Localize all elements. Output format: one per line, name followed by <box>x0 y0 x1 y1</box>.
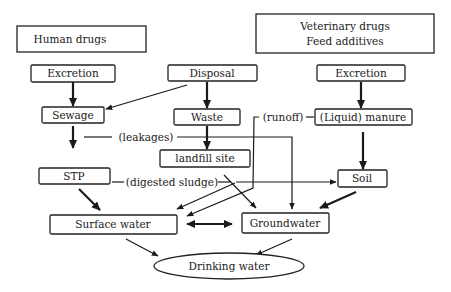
node-label: Excretion <box>47 67 99 79</box>
node-veterinary-drugs-feed-additives: Veterinary drugs Feed additives <box>256 14 434 53</box>
node-disposal: Disposal <box>168 65 257 81</box>
node-label: Groundwater <box>250 217 322 229</box>
arrow-stp-to-surface-water <box>79 189 100 210</box>
node-label: Excretion <box>335 67 387 79</box>
node-label: Waste <box>191 111 223 123</box>
node-excretion-human: Excretion <box>31 65 115 82</box>
node-label: Soil <box>352 172 373 184</box>
node-label: Drinking water <box>189 260 271 272</box>
node-label-line2: Feed additives <box>306 35 383 47</box>
node-sewage: Sewage <box>42 107 104 123</box>
node-label: Human drugs <box>34 33 107 45</box>
label-runoff: (runoff) <box>263 111 304 123</box>
node-label-line1: Veterinary drugs <box>299 20 390 32</box>
arrow-soil-to-groundwater <box>320 192 356 208</box>
node-label: Surface water <box>75 218 151 230</box>
node-landfill-site: landfill site <box>160 150 250 167</box>
node-excretion-vet: Excretion <box>317 65 405 81</box>
label-digested-sludge: (digested sludge) <box>126 176 218 188</box>
node-surface-water: Surface water <box>50 215 177 234</box>
label-leakages: (leakages) <box>119 131 174 143</box>
node-groundwater: Groundwater <box>242 213 329 233</box>
arrow-disposal-to-sewage <box>106 85 187 109</box>
node-label: STP <box>63 170 84 182</box>
node-label: Disposal <box>189 67 235 79</box>
node-human-drugs: Human drugs <box>17 26 146 52</box>
arrow-surface-to-drinking <box>126 239 158 256</box>
arrow-groundwater-to-drinking <box>256 239 292 255</box>
node-waste: Waste <box>174 109 240 125</box>
pharmaceutical-pathways-diagram: (leakages) (runoff) (digested sludge) Hu… <box>0 0 451 292</box>
node-soil: Soil <box>338 170 387 187</box>
node-label: Sewage <box>52 109 94 121</box>
node-stp: STP <box>39 168 110 184</box>
node-liquid-manure: (Liquid) manure <box>315 109 412 125</box>
arrow-landfill-to-groundwater <box>224 175 256 208</box>
node-drinking-water: Drinking water <box>154 253 304 279</box>
node-label: (Liquid) manure <box>320 111 406 123</box>
node-label: landfill site <box>175 152 234 164</box>
leakages-line-to-groundwater <box>177 137 292 209</box>
